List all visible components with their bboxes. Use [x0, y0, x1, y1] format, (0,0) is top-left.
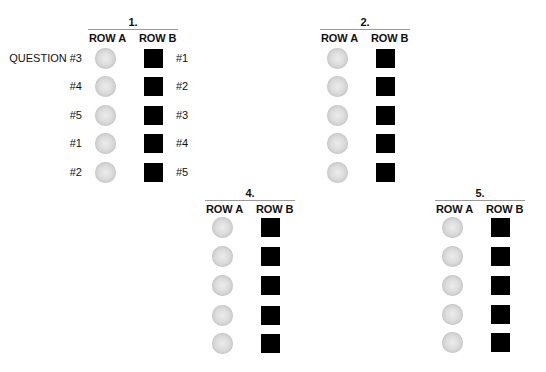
- row-a-circle-icon: [442, 304, 463, 325]
- group-divider: [320, 29, 410, 30]
- row-b-header: ROW B: [371, 32, 408, 44]
- matching-row: #2 #5: [88, 162, 178, 184]
- group-1: 1. ROW A ROW B QUESTION #3 #1 #4 #2 #5 #…: [88, 16, 178, 186]
- question-label: #4: [70, 80, 82, 93]
- row-b-square-icon: [491, 218, 510, 237]
- row-b-square-icon: [261, 247, 280, 266]
- row-a-header: ROW A: [89, 32, 126, 44]
- row-a-circle-icon: [327, 48, 348, 69]
- answer-label: #1: [176, 52, 188, 65]
- row-a-circle-icon: [442, 246, 463, 267]
- row-a-circle-icon: [95, 105, 116, 126]
- row-a-circle-icon: [327, 133, 348, 154]
- answer-label: #5: [176, 166, 188, 179]
- matching-row: [205, 275, 295, 297]
- row-b-square-icon: [491, 333, 510, 352]
- row-a-header: ROW A: [436, 203, 473, 215]
- row-b-square-icon: [261, 306, 280, 325]
- matching-row: [205, 217, 295, 239]
- question-label: QUESTION #3: [9, 52, 82, 65]
- row-b-square-icon: [261, 334, 280, 353]
- row-a-header: ROW A: [321, 32, 358, 44]
- group-title: 2.: [320, 16, 410, 28]
- matching-row: [320, 162, 410, 184]
- question-label: #5: [70, 109, 82, 122]
- matching-row: #1 #4: [88, 133, 178, 155]
- row-a-header: ROW A: [206, 203, 243, 215]
- row-b-square-icon: [261, 276, 280, 295]
- group-title: 1.: [88, 16, 178, 28]
- group-2: 2. ROW A ROW B: [320, 16, 410, 186]
- row-a-circle-icon: [327, 105, 348, 126]
- row-b-square-icon: [144, 77, 163, 96]
- group-title: 4.: [205, 187, 295, 199]
- matching-row: [320, 48, 410, 70]
- row-a-circle-icon: [327, 76, 348, 97]
- row-b-square-icon: [491, 305, 510, 324]
- row-a-circle-icon: [95, 133, 116, 154]
- row-a-circle-icon: [212, 333, 233, 354]
- matching-row: #4 #2: [88, 76, 178, 98]
- row-a-circle-icon: [95, 48, 116, 69]
- row-a-circle-icon: [212, 246, 233, 267]
- row-b-header: ROW B: [256, 203, 293, 215]
- row-b-square-icon: [261, 218, 280, 237]
- matching-row: [320, 105, 410, 127]
- row-b-square-icon: [144, 134, 163, 153]
- row-b-square-icon: [376, 77, 395, 96]
- row-a-circle-icon: [327, 162, 348, 183]
- matching-row: [435, 304, 525, 326]
- question-label: #1: [70, 137, 82, 150]
- row-a-circle-icon: [212, 217, 233, 238]
- matching-row: [435, 217, 525, 239]
- matching-row: #5 #3: [88, 105, 178, 127]
- row-b-square-icon: [376, 163, 395, 182]
- clipped-caption-text: [40, 0, 260, 3]
- matching-row: [205, 246, 295, 268]
- group-divider: [205, 200, 295, 201]
- group-divider: [88, 29, 178, 30]
- group-title: 5.: [435, 187, 525, 199]
- matching-row: [205, 333, 295, 355]
- row-b-header: ROW B: [486, 203, 523, 215]
- group-5: 5. ROW A ROW B: [435, 187, 525, 357]
- answer-label: #3: [176, 109, 188, 122]
- row-b-square-icon: [144, 163, 163, 182]
- answer-label: #2: [176, 80, 188, 93]
- row-b-square-icon: [491, 247, 510, 266]
- row-a-circle-icon: [212, 305, 233, 326]
- matching-row: [320, 76, 410, 98]
- row-b-square-icon: [144, 106, 163, 125]
- group-4: 4. ROW A ROW B: [205, 187, 295, 357]
- answer-label: #4: [176, 137, 188, 150]
- row-b-square-icon: [376, 106, 395, 125]
- row-a-circle-icon: [95, 162, 116, 183]
- question-label: #2: [70, 166, 82, 179]
- matching-row: [205, 305, 295, 327]
- row-b-square-icon: [144, 49, 163, 68]
- matching-row: [435, 246, 525, 268]
- row-b-square-icon: [491, 276, 510, 295]
- row-a-circle-icon: [442, 332, 463, 353]
- group-divider: [435, 200, 525, 201]
- row-b-square-icon: [376, 134, 395, 153]
- matching-row: [435, 275, 525, 297]
- row-b-square-icon: [376, 49, 395, 68]
- row-b-header: ROW B: [139, 32, 176, 44]
- matching-row: [435, 332, 525, 354]
- matching-row: QUESTION #3 #1: [88, 48, 178, 70]
- row-a-circle-icon: [442, 275, 463, 296]
- row-a-circle-icon: [442, 217, 463, 238]
- row-a-circle-icon: [95, 76, 116, 97]
- matching-row: [320, 133, 410, 155]
- row-a-circle-icon: [212, 275, 233, 296]
